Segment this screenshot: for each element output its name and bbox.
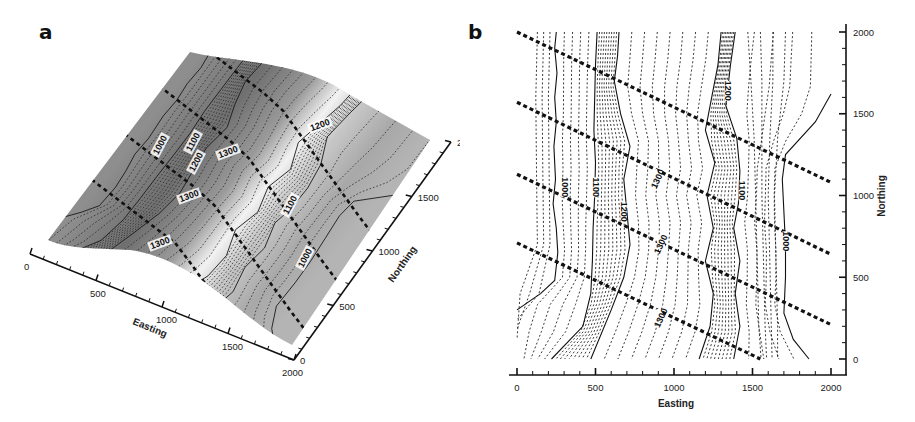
survey-lines xyxy=(517,32,831,359)
x-axis-title: Easting xyxy=(658,398,694,409)
y-tick-label: 2000 xyxy=(853,27,874,38)
x-tick-label: 0 xyxy=(514,382,519,393)
x-axis: 0500100015002000 Easting xyxy=(509,368,847,409)
easting-tick-label: 1000 xyxy=(156,314,177,325)
contour-label: 1300 xyxy=(652,307,670,329)
contour-label: 1200 xyxy=(619,202,629,222)
contour-label: 1000 xyxy=(560,177,570,197)
northing-tick-label: 500 xyxy=(339,301,355,312)
survey-line-1 xyxy=(517,32,831,182)
contour-line-1200 xyxy=(699,32,721,359)
panel-a-3d-surface: 100011001200130013001300120011001000 050… xyxy=(0,0,460,422)
easting-tick-label: 1500 xyxy=(222,341,243,352)
contour-labels: 100011001200130013001300120011001000 xyxy=(560,81,791,329)
contour-label: 1100 xyxy=(591,178,601,198)
survey-line-2 xyxy=(517,102,831,254)
contour-label: 1000 xyxy=(781,231,791,251)
dotted-contours xyxy=(517,32,812,359)
y-axis-title: Northing xyxy=(876,175,887,217)
contour-line-1100 xyxy=(552,32,598,359)
northing-tick-label: 2000 xyxy=(457,137,460,148)
easting-tick-label: 0 xyxy=(24,261,29,272)
contour-line-1000 xyxy=(782,94,831,359)
y-tick-label: 500 xyxy=(853,272,869,283)
survey-line-3 xyxy=(517,174,831,324)
northing-tick-label: 1500 xyxy=(418,192,439,203)
northing-tick-label: 1000 xyxy=(379,246,400,257)
y-tick-label: 1000 xyxy=(853,190,874,201)
x-tick-label: 500 xyxy=(588,382,604,393)
contour-line-1200 xyxy=(591,32,630,359)
contour-label: 1100 xyxy=(737,181,747,201)
solid-contours xyxy=(517,32,831,359)
contour-label: 1300 xyxy=(652,233,670,255)
contour-line-1000 xyxy=(517,32,558,310)
contour-label: 1200 xyxy=(723,81,733,101)
x-tick-label: 1000 xyxy=(663,382,684,393)
x-tick-label: 1500 xyxy=(742,382,763,393)
easting-tick-label: 500 xyxy=(90,288,106,299)
y-axis: 0500100015002000 Northing xyxy=(839,24,887,375)
contour-line-1100 xyxy=(726,32,740,359)
easting-tick-label: 2000 xyxy=(282,367,303,378)
northing-tick-label: 0 xyxy=(300,355,305,366)
panel-b-label: b xyxy=(468,20,482,44)
contour-label: 1300 xyxy=(649,168,667,190)
survey-line-4 xyxy=(517,243,760,359)
y-tick-label: 1500 xyxy=(853,108,874,119)
y-tick-label: 0 xyxy=(853,354,858,365)
x-tick-label: 2000 xyxy=(820,382,841,393)
